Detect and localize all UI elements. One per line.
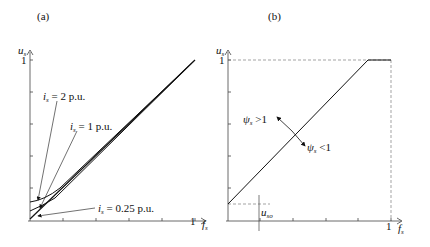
panel-b: (b) us 1 1 fs ψs >1 ψs <1 uso [216,10,404,236]
y-tick-1: 1 [219,54,225,66]
annotation-psi-lt-1: ψs <1 [307,141,331,155]
y-tick-1: 1 [21,54,27,66]
annotation-is-1: is = 1 p.u. [70,120,113,134]
curve-is-1 [30,60,195,211]
panel-a: (a) us 1 1 fs is = 2 p.u. is = 1 p.u. is… [18,10,208,232]
annotation-psi-gt-1: ψs >1 [243,113,267,127]
curve-is-2 [30,60,195,202]
curve-is-025 [30,60,195,219]
figure: (a) us 1 1 fs is = 2 p.u. is = 1 p.u. is… [0,0,430,247]
x-tick-1: 1 [190,215,196,227]
us-fs-line [228,60,391,204]
annotation-is-025: is = 0.25 p.u. [98,202,154,216]
panel-a-label: (a) [37,10,50,23]
uso-label: uso [261,206,273,220]
x-axis-label: fs [398,222,404,236]
x-axis-label: fs [202,218,208,232]
annotation-is-2: is = 2 p.u. [43,90,86,104]
panel-b-label: (b) [268,10,281,23]
x-tick-1: 1 [386,220,392,232]
